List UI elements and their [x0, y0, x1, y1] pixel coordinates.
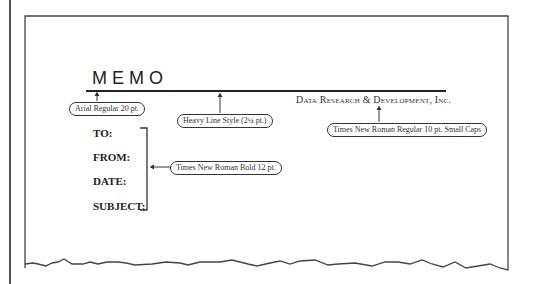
callout-field-font: Times New Roman Bold 12 pt. [170, 161, 282, 175]
field-from: FROM: [93, 151, 130, 163]
memo-page-outline [0, 0, 545, 284]
callout-company-font: Times New Roman Regular 10 pt. Small Cap… [327, 123, 487, 137]
arrow-up-icon [95, 92, 100, 97]
field-to: TO: [93, 127, 112, 139]
callout-title-font: Arial Regular 20 pt. [69, 102, 145, 116]
company-name: Data Research & Development, Inc. [296, 94, 451, 105]
callout-line-style: Heavy Line Style (2¼ pt.) [177, 114, 273, 128]
fields-bracket [140, 128, 147, 210]
field-subject: SUBJECT: [93, 200, 145, 212]
field-date: DATE: [93, 175, 126, 187]
memo-title: MEMO [92, 68, 168, 89]
